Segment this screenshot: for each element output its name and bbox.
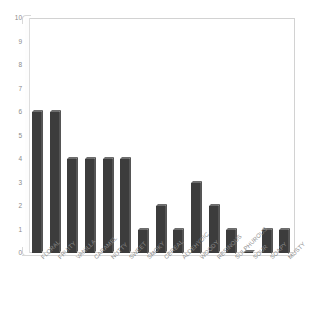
y-tick-label: 3	[2, 179, 22, 186]
bar	[32, 112, 42, 253]
y-tick-label: 7	[2, 85, 22, 92]
bar-slot	[101, 18, 119, 253]
bar-slot	[189, 18, 207, 253]
bar-slot	[207, 18, 225, 253]
bar-slot	[65, 18, 83, 253]
y-tick-label: 9	[2, 38, 22, 45]
bar-slot	[136, 18, 154, 253]
bar-slot	[30, 18, 48, 253]
y-tick-label: 5	[2, 132, 22, 139]
bar-slot	[224, 18, 242, 253]
y-tick-label: 2	[2, 203, 22, 210]
y-tick-label: 8	[2, 62, 22, 69]
bar-slot	[118, 18, 136, 253]
bar-slot	[242, 18, 260, 253]
bar-slot	[171, 18, 189, 253]
bar-slot	[277, 18, 295, 253]
bar-chart: 109876543210 FLORALFRUITYVANILLACARAMELN…	[0, 0, 313, 311]
y-tick-label: 1	[2, 226, 22, 233]
y-tick-label: 4	[2, 156, 22, 163]
bar-slot	[83, 18, 101, 253]
bar	[50, 112, 60, 253]
y-tick-label: 10	[2, 15, 22, 22]
y-tick-label: 0	[2, 250, 22, 257]
bar	[120, 159, 130, 253]
bar-slot	[48, 18, 66, 253]
bar-slot	[154, 18, 172, 253]
bar-slot	[260, 18, 278, 253]
y-axis: 109876543210	[0, 18, 22, 253]
y-tick-label: 6	[2, 109, 22, 116]
x-axis-labels: FLORALFRUITYVANILLACARAMELNUTTYSWEETSMOK…	[30, 256, 295, 311]
bars-container	[30, 18, 295, 253]
